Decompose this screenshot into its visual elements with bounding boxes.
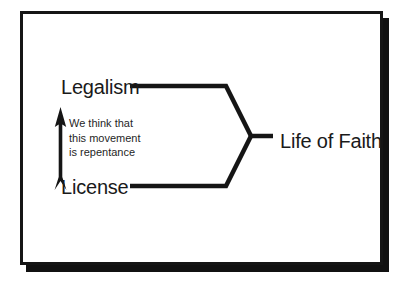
annotation-line-1: We think that xyxy=(69,116,141,131)
connector-license-to-life xyxy=(130,136,251,186)
node-label-life-of-faith: Life of Faith xyxy=(280,131,382,151)
diagram-stage: Legalism License Life of Faith We think … xyxy=(0,0,405,285)
diagram-frame: Legalism License Life of Faith We think … xyxy=(20,11,383,265)
connector-legalism-to-life xyxy=(130,86,251,136)
node-label-legalism: Legalism xyxy=(61,77,139,97)
annotation-line-3: is repentance xyxy=(69,145,141,160)
annotation-text: We think that this movement is repentanc… xyxy=(69,116,141,160)
annotation-line-2: this movement xyxy=(69,131,141,146)
node-label-license: License xyxy=(61,177,129,197)
